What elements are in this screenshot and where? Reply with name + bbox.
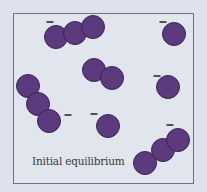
diagram-caption: Initial equilibrium bbox=[32, 155, 125, 167]
particle-circle bbox=[157, 76, 180, 99]
particle-group-dimer-center bbox=[83, 59, 124, 90]
particle-group-monomer-center-bottom bbox=[91, 113, 120, 137]
negative-charge-icon bbox=[65, 114, 72, 116]
negative-charge-icon bbox=[47, 21, 54, 23]
particle-group-trimer-left bbox=[17, 75, 72, 133]
particle-circle bbox=[163, 23, 186, 46]
particle-circle bbox=[101, 67, 124, 90]
particle-circle bbox=[38, 110, 61, 133]
negative-charge-icon bbox=[154, 75, 161, 77]
particle-group-monomer-top-right bbox=[160, 21, 186, 45]
negative-charge-icon bbox=[160, 21, 167, 23]
particle-group-monomer-right bbox=[154, 75, 180, 98]
negative-charge-icon bbox=[167, 124, 174, 126]
negative-charge-icon bbox=[91, 113, 98, 115]
particle-circle bbox=[97, 115, 120, 138]
particle-group-trimer-bottom-right bbox=[134, 124, 190, 174]
particle-group-trimer-top-left bbox=[45, 16, 105, 49]
particle-circle bbox=[167, 129, 190, 152]
particle-circle bbox=[82, 16, 105, 39]
